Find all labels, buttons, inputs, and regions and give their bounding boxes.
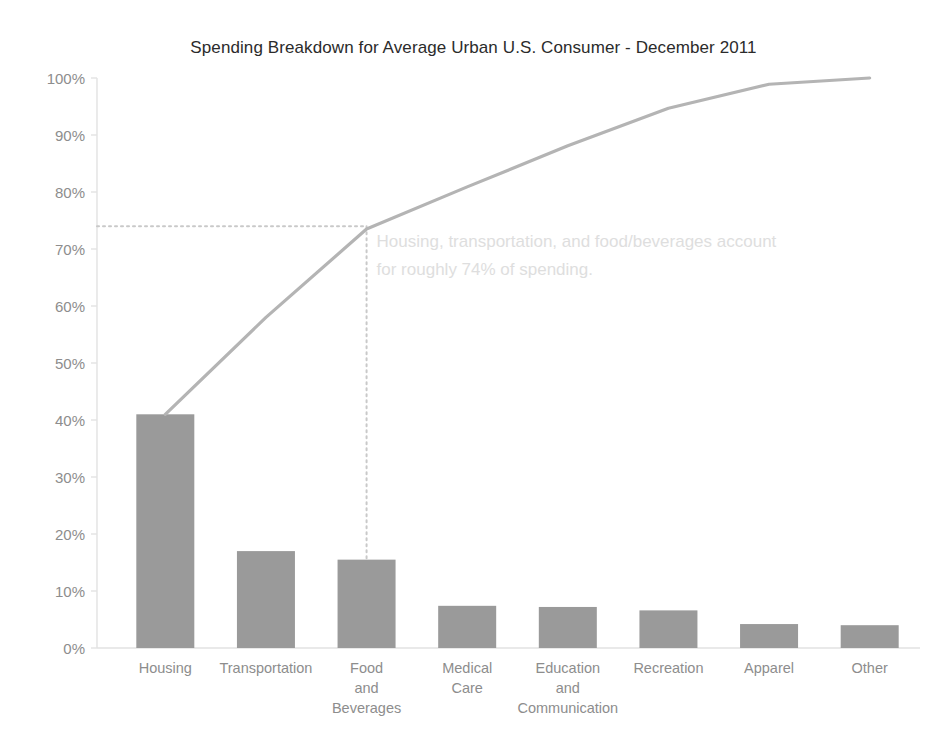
bar-recreation[interactable] — [639, 610, 697, 648]
y-axis-label-60: 60% — [23, 298, 85, 315]
bar-food-and-beverages[interactable] — [338, 560, 396, 648]
plot-area: 100%90%80%70%60%50%40%30%20%10%0% Housin… — [0, 0, 947, 733]
y-axis-label-50: 50% — [23, 355, 85, 372]
bar-apparel[interactable] — [740, 624, 798, 648]
x-axis-label-line: Beverages — [302, 698, 431, 718]
bar-transportation[interactable] — [237, 551, 295, 648]
bars-group — [136, 414, 898, 648]
y-axis-label-20: 20% — [23, 526, 85, 543]
bar-education-and-communication[interactable] — [539, 607, 597, 648]
bar-other[interactable] — [841, 625, 899, 648]
annotation-line: for roughly 74% of spending. — [377, 256, 897, 284]
chart-container: Spending Breakdown for Average Urban U.S… — [0, 0, 947, 733]
x-axis-label-line: and — [504, 678, 633, 698]
x-axis-label-line: Other — [805, 658, 934, 678]
annotation-line: Housing, transportation, and food/bevera… — [377, 228, 897, 256]
y-axis-label-0: 0% — [23, 640, 85, 657]
y-axis-label-10: 10% — [23, 583, 85, 600]
x-axis-label-line: Communication — [504, 698, 633, 718]
x-axis-category-other[interactable]: Other — [805, 658, 934, 678]
y-axis-label-30: 30% — [23, 469, 85, 486]
y-axis-label-100: 100% — [23, 70, 85, 87]
bar-medical-care[interactable] — [438, 606, 496, 648]
y-axis-label-70: 70% — [23, 241, 85, 258]
y-axis-label-80: 80% — [23, 184, 85, 201]
axis-group — [91, 78, 920, 648]
bar-housing[interactable] — [136, 414, 194, 648]
y-axis-label-40: 40% — [23, 412, 85, 429]
annotation-cumulative-callout: Housing, transportation, and food/bevera… — [377, 228, 897, 284]
chart-canvas — [0, 0, 947, 733]
y-axis-label-90: 90% — [23, 127, 85, 144]
